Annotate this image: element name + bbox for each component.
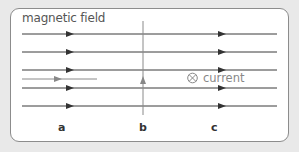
label-b: b <box>139 121 147 134</box>
into-page-circle-x-icon <box>188 73 198 83</box>
label-c: c <box>211 121 218 134</box>
diagram-title: magnetic field <box>22 11 105 25</box>
field-lines <box>22 34 277 106</box>
label-a: a <box>58 121 65 134</box>
current-label: current <box>203 71 245 85</box>
